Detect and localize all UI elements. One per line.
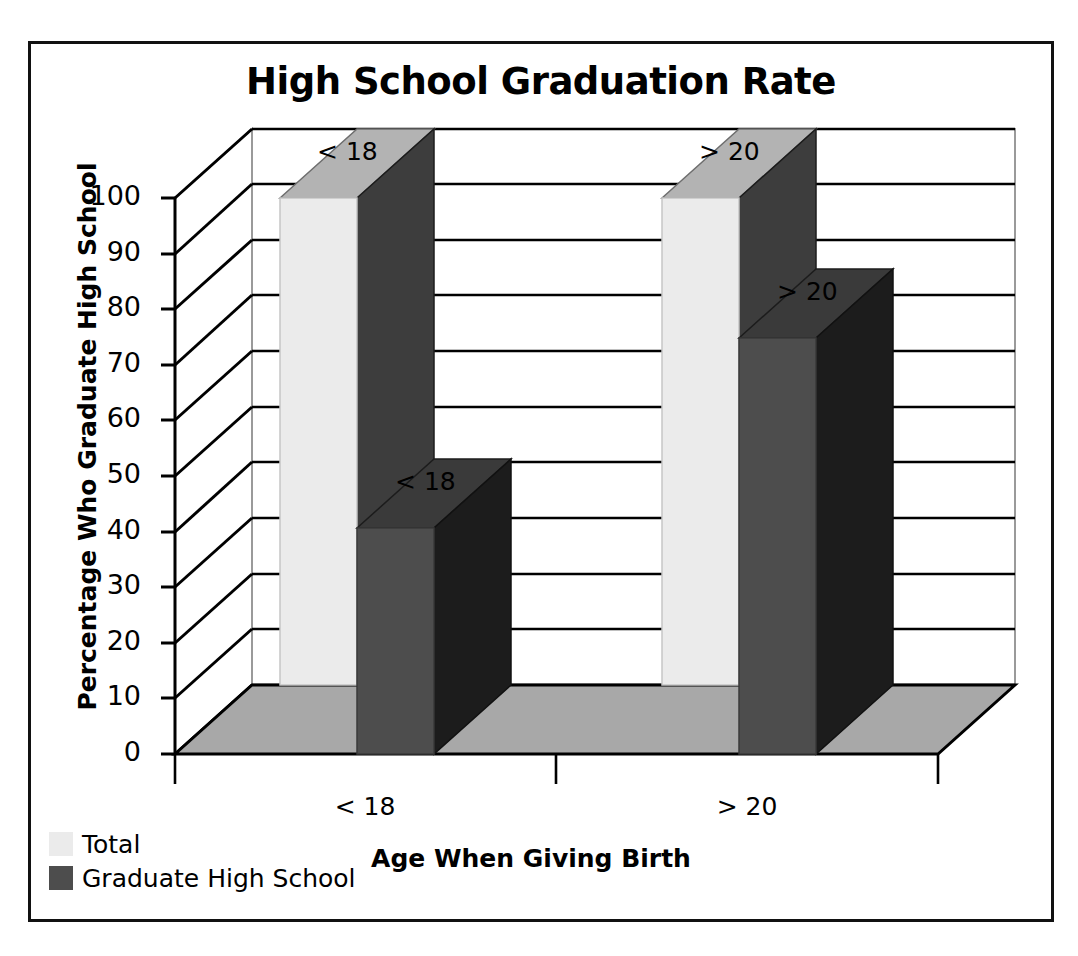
plot-area: 100 90 80 70 60 50 40 30 20 10 0 < 18 > … — [31, 44, 1051, 919]
bar-total-gt20-front — [662, 198, 739, 685]
chart-container: High School Graduation Rate — [28, 41, 1054, 922]
legend-label-total: Total — [82, 830, 140, 859]
data-label-graduate-lt18: < 18 — [395, 467, 456, 496]
legend-label-graduate-high-school: Graduate High School — [82, 864, 356, 893]
legend-swatch-total — [49, 832, 73, 856]
bar-graduate-gt20-side — [816, 269, 893, 754]
x-axis-ticks — [175, 754, 938, 784]
chart-legend: Total Graduate High School — [49, 827, 356, 895]
y-tick-0: 0 — [61, 736, 141, 767]
bar-graduate-gt20[interactable] — [739, 269, 893, 754]
bar-graduate-lt18-front — [357, 528, 434, 754]
floor-plate — [175, 685, 1015, 754]
legend-item-total[interactable]: Total — [49, 827, 356, 861]
data-label-total-gt20: > 20 — [699, 137, 760, 166]
data-label-graduate-gt20: > 20 — [777, 277, 838, 306]
legend-item-graduate-high-school[interactable]: Graduate High School — [49, 861, 356, 895]
bar-graduate-gt20-front — [739, 338, 816, 754]
legend-swatch-graduate-high-school — [49, 866, 73, 890]
y-axis-ticks — [161, 198, 175, 754]
x-tick-gt20: > 20 — [667, 792, 827, 821]
chart-3d-canvas — [31, 44, 1057, 925]
bar-total-lt18-front — [280, 198, 357, 685]
data-label-total-lt18: < 18 — [317, 137, 378, 166]
x-tick-lt18: < 18 — [285, 792, 445, 821]
y-axis-title: Percentage Who Graduate High School — [73, 157, 102, 717]
